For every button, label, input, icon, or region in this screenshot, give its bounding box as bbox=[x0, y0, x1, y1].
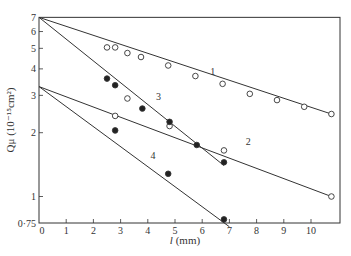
x-tick-label: 6 bbox=[200, 225, 205, 236]
y-tick-label: 2 bbox=[31, 127, 36, 138]
open-point bbox=[301, 104, 307, 110]
axis-ticks: 0123456789100·751234567 bbox=[18, 12, 316, 236]
x-tick-label: 1 bbox=[64, 225, 69, 236]
fit-line-1 bbox=[39, 17, 331, 114]
data-points bbox=[104, 45, 334, 223]
filled-point bbox=[221, 160, 227, 166]
y-tick-label: 3 bbox=[31, 90, 36, 101]
x-tick-label: 0 bbox=[40, 225, 45, 236]
open-point bbox=[112, 113, 118, 119]
x-tick-label: 2 bbox=[91, 225, 96, 236]
open-point bbox=[247, 91, 253, 97]
open-point bbox=[274, 97, 280, 103]
filled-point bbox=[165, 171, 171, 177]
y-tick-label: 4 bbox=[31, 63, 36, 74]
x-tick-label: 3 bbox=[118, 225, 123, 236]
open-point bbox=[104, 45, 110, 51]
fit-line-2 bbox=[39, 87, 331, 197]
open-point bbox=[329, 194, 335, 200]
y-tick-label: 0·75 bbox=[18, 218, 36, 229]
filled-point bbox=[112, 128, 118, 134]
open-point bbox=[165, 63, 171, 69]
curve-label-3: 3 bbox=[156, 91, 161, 102]
filled-point bbox=[140, 106, 146, 112]
y-tick-label: 1 bbox=[31, 191, 36, 202]
x-tick-label: 8 bbox=[254, 225, 259, 236]
y-axis-label: Qμ (10⁻¹⁵cm²) bbox=[4, 87, 17, 152]
filled-point bbox=[112, 82, 118, 88]
filled-point bbox=[167, 119, 173, 125]
open-point bbox=[138, 54, 144, 60]
open-point bbox=[193, 73, 199, 79]
y-tick-label: 6 bbox=[31, 26, 36, 37]
y-tick-label: 5 bbox=[31, 43, 36, 54]
x-tick-label: 10 bbox=[306, 225, 316, 236]
chart: 0123456789100·751234567 1234 l (mm) Qμ (… bbox=[0, 0, 351, 256]
curve-label-4: 4 bbox=[151, 150, 156, 161]
filled-point bbox=[221, 217, 227, 223]
open-point bbox=[221, 148, 227, 154]
open-point bbox=[125, 50, 131, 56]
curve-label-2: 2 bbox=[246, 136, 251, 147]
open-point bbox=[125, 96, 131, 102]
fit-lines bbox=[39, 17, 331, 226]
open-point bbox=[220, 81, 226, 87]
x-tick-label: 4 bbox=[145, 225, 150, 236]
open-point bbox=[112, 45, 118, 51]
x-tick-label: 9 bbox=[281, 225, 286, 236]
filled-point bbox=[104, 76, 110, 82]
y-tick-label: 7 bbox=[31, 12, 36, 23]
x-axis-label: l (mm) bbox=[170, 234, 201, 247]
open-point bbox=[329, 111, 335, 117]
fit-line-4 bbox=[39, 87, 229, 227]
filled-point bbox=[194, 142, 200, 148]
curve-label-1: 1 bbox=[210, 66, 215, 77]
